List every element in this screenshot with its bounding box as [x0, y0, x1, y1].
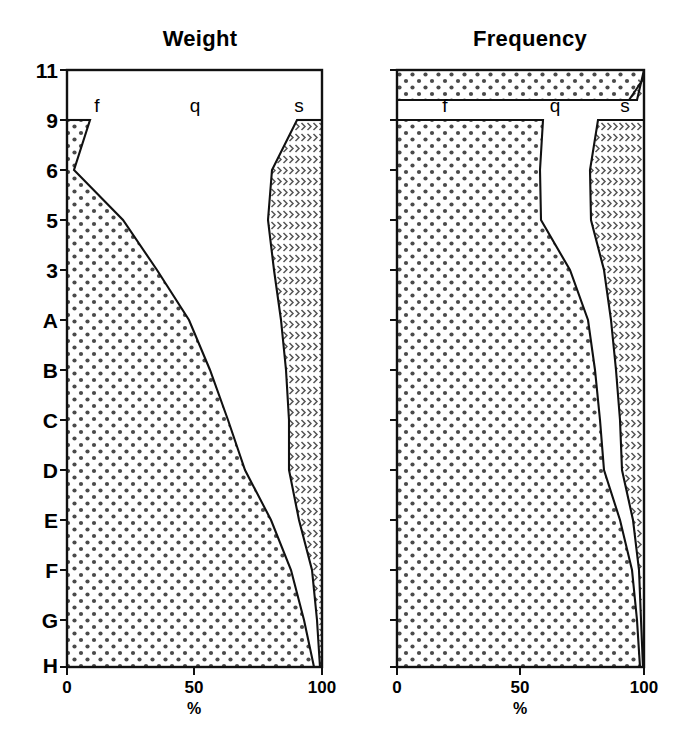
frequency-xaxis-label: % — [502, 700, 538, 718]
frequency-xtick-50: 50 — [502, 678, 538, 698]
weight-xaxis-label: % — [176, 700, 212, 718]
frequency-plot-frame — [397, 70, 644, 667]
frequency-f-boundary-line — [397, 120, 640, 667]
weight-xtick-0: 0 — [52, 678, 82, 698]
weight-f-boundary-line — [67, 120, 314, 667]
weight-band-s-area — [268, 120, 322, 667]
frequency-band-label-f: f — [428, 95, 462, 117]
frequency-band-label-q: q — [538, 95, 572, 117]
ytick-label-f: F — [18, 559, 58, 583]
ytick-label-h: H — [18, 654, 58, 678]
frequency-band-s-area — [590, 120, 644, 667]
weight-xtick-50: 50 — [176, 678, 212, 698]
ytick-label-c: C — [18, 409, 58, 433]
weight-s-boundary-line — [268, 120, 322, 667]
frequency-band-f-area — [397, 120, 640, 667]
weight-xtick-100: 100 — [298, 678, 346, 698]
ytick-label-d: D — [18, 459, 58, 483]
frequency-xtick-100: 100 — [620, 678, 668, 698]
frequency-xtick-0: 0 — [382, 678, 412, 698]
ytick-label-e: E — [18, 509, 58, 533]
weight-band-f-area — [67, 120, 314, 667]
ytick-label-3: 3 — [18, 259, 58, 283]
frequency-s-boundary-line — [590, 120, 644, 667]
ytick-label-11: 11 — [18, 59, 58, 83]
weight-band-label-q: q — [178, 95, 212, 117]
ytick-label-g: G — [18, 609, 58, 633]
weight-plot-frame — [67, 70, 322, 667]
frequency-xtick-marks — [397, 667, 644, 675]
weight-band-label-f: f — [80, 95, 114, 117]
ytick-label-9: 9 — [18, 109, 58, 133]
panel-title-frequency: Frequency — [420, 26, 640, 52]
frequency-band-label-s: s — [608, 95, 642, 117]
weight-xtick-marks — [67, 667, 322, 675]
weight-ytick-marks — [60, 70, 67, 667]
figure-canvas: Weight Frequency 11 9 6 5 3 A B C D E F … — [0, 0, 680, 750]
ytick-label-6: 6 — [18, 159, 58, 183]
frequency-ytick-marks — [390, 70, 397, 667]
ytick-label-a: A — [18, 309, 58, 333]
ytick-label-5: 5 — [18, 209, 58, 233]
ytick-label-b: B — [18, 359, 58, 383]
panel-title-weight: Weight — [100, 26, 300, 52]
weight-band-label-s: s — [282, 95, 316, 117]
